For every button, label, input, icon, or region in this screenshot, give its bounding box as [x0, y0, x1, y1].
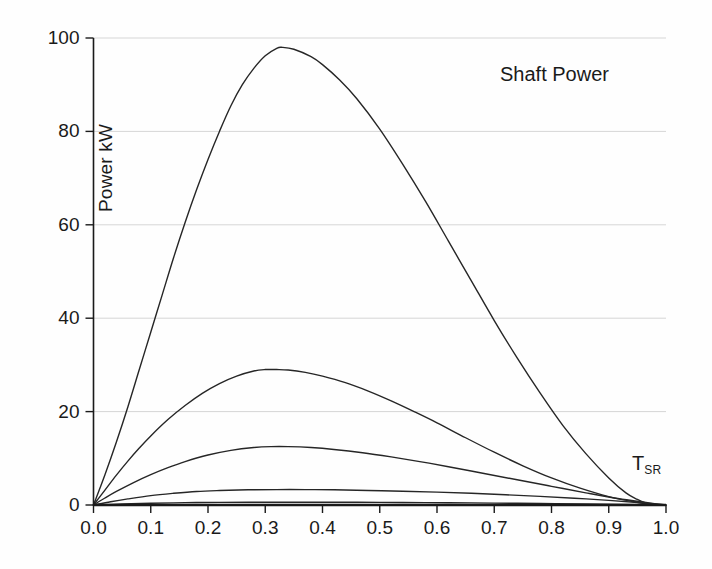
y-tick-label: 20 [0, 401, 80, 423]
x-axis-label: TSR [632, 452, 662, 475]
x-tick-label: 1.0 [653, 517, 679, 539]
y-tick-label: 40 [0, 307, 80, 329]
curve-3 [94, 447, 667, 505]
y-tick-label: 0 [0, 494, 80, 516]
y-axis-label: Power kW [95, 124, 117, 212]
x-tick-label: 0.6 [424, 517, 450, 539]
data-curves [94, 47, 667, 505]
y-tick-label: 60 [0, 214, 80, 236]
curve-2 [94, 369, 661, 505]
x-tick-label: 0.1 [138, 517, 164, 539]
x-tick-label: 0.8 [538, 517, 564, 539]
x-tick-label: 0.7 [481, 517, 507, 539]
x-tick-label: 0.4 [309, 517, 335, 539]
axis-lines [94, 38, 667, 505]
curve-1 [94, 47, 652, 505]
y-tick-label: 80 [0, 120, 80, 142]
gridlines [94, 38, 667, 412]
chart-figure: Power kW Shaft Power TSR 0.00.10.20.30.4… [0, 0, 712, 569]
tick-marks [86, 38, 667, 513]
x-tick-label: 0.3 [252, 517, 278, 539]
y-tick-label: 100 [0, 27, 80, 49]
x-tick-label: 0.0 [80, 517, 106, 539]
x-axis-label-sub: SR [644, 463, 661, 477]
chart-title: Shaft Power [500, 63, 609, 86]
x-axis-label-main: T [632, 452, 644, 474]
x-tick-label: 0.2 [195, 517, 221, 539]
x-tick-label: 0.5 [367, 517, 393, 539]
x-tick-label: 0.9 [596, 517, 622, 539]
